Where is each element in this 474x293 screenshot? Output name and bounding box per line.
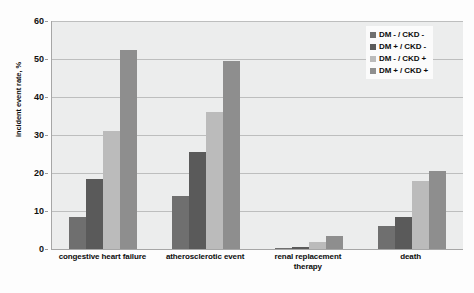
x-axis-label-line: death [361,252,460,262]
x-axis-label-line: atherosclerotic event [156,252,255,262]
legend-label: DM - / CKD + [379,54,426,63]
x-axis-label: congestive heart failure [51,252,154,290]
y-tick-mark [45,21,48,22]
y-tick-label: 30 [34,130,44,140]
x-axis-label-line: congestive heart failure [53,252,152,262]
y-tick-label: 40 [34,92,44,102]
y-tick-label: 20 [34,168,44,178]
y-tick-mark [45,135,48,136]
bar[interactable] [412,181,429,249]
bar[interactable] [103,131,120,249]
bar[interactable] [69,217,86,249]
bar[interactable] [292,247,309,249]
y-tick-mark [45,59,48,60]
legend-swatch-icon [370,56,376,62]
legend-swatch-icon [370,44,376,50]
bar-group [258,21,361,249]
bar[interactable] [395,217,412,249]
legend-swatch-icon [370,68,376,74]
bar[interactable] [206,112,223,249]
bar[interactable] [378,226,395,249]
bar[interactable] [429,171,446,249]
x-axis-label: atherosclerotic event [154,252,257,290]
bar[interactable] [309,242,326,249]
legend-item[interactable]: DM - / CKD - [370,30,428,39]
x-axis-label-line: therapy [259,262,358,272]
bar-group [155,21,258,249]
y-tick-label: 50 [34,54,44,64]
x-axis-label: renal replacementtherapy [257,252,360,290]
y-tick-label: 60 [34,16,44,26]
y-axis-ticks: 0102030405060 [22,21,48,249]
x-axis-label: death [359,252,462,290]
bar[interactable] [275,248,292,249]
legend: DM - / CKD -DM + / CKD -DM - / CKD +DM +… [366,26,433,79]
x-axis-labels: congestive heart failureatherosclerotic … [51,252,462,290]
legend-label: DM - / CKD - [379,30,424,39]
y-tick-mark [45,211,48,212]
bar-chart: incident event rate, % 0102030405060 con… [0,0,474,293]
y-tick-mark [45,249,48,250]
legend-swatch-icon [370,32,376,38]
bar[interactable] [172,196,189,249]
bar[interactable] [86,179,103,249]
bar-group [52,21,155,249]
legend-label: DM + / CKD - [379,42,426,51]
y-tick-label: 10 [34,206,44,216]
legend-item[interactable]: DM + / CKD - [370,42,428,51]
bar[interactable] [326,236,343,249]
y-tick-label: 0 [39,244,44,254]
legend-label: DM + / CKD + [379,66,428,75]
x-axis-label-line: renal replacement [259,252,358,262]
y-tick-mark [45,97,48,98]
bar[interactable] [120,50,137,250]
legend-item[interactable]: DM - / CKD + [370,54,428,63]
y-tick-mark [45,173,48,174]
legend-item[interactable]: DM + / CKD + [370,66,428,75]
bar[interactable] [189,152,206,249]
bar[interactable] [223,61,240,249]
